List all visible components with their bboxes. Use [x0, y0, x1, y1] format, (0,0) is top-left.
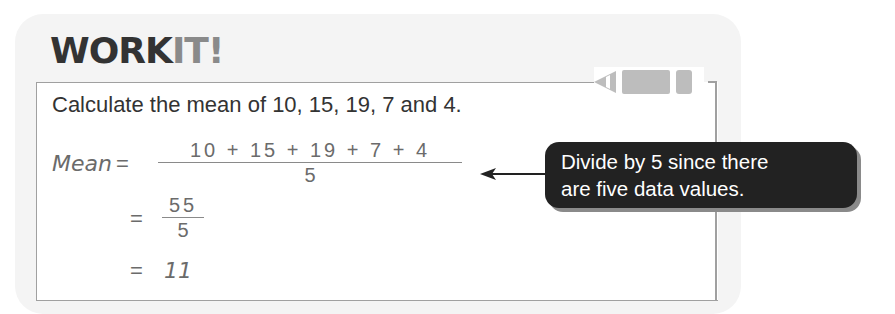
equals-sign-2: =	[130, 206, 143, 232]
result-value: 11	[164, 258, 192, 283]
question-text: Calculate the mean of 10, 15, 19, 7 and …	[52, 92, 462, 118]
fraction-sum-denominator: 5	[158, 163, 462, 187]
pencil-icon	[594, 67, 704, 97]
fraction-total-numerator: 55	[162, 193, 204, 218]
callout-line-1: Divide by 5 since there	[561, 148, 857, 175]
equals-sign-1: =	[116, 151, 129, 177]
callout-note: Divide by 5 since there are five data va…	[545, 142, 857, 208]
section-title: WORKIT!	[50, 30, 223, 71]
box-top-border	[36, 82, 596, 83]
title-it: IT!	[172, 30, 223, 71]
mean-label: Mean	[52, 151, 112, 176]
arrow-left-icon	[480, 168, 550, 180]
callout-line-2: are five data values.	[561, 175, 857, 202]
fraction-sum-numerator: 10 + 15 + 19 + 7 + 4	[158, 138, 462, 163]
equals-sign-3: =	[130, 258, 143, 284]
fraction-total: 55 5	[162, 193, 204, 242]
fraction-total-denominator: 5	[162, 218, 204, 242]
title-work: WORK	[50, 30, 172, 71]
fraction-sum: 10 + 15 + 19 + 7 + 4 5	[158, 138, 462, 187]
